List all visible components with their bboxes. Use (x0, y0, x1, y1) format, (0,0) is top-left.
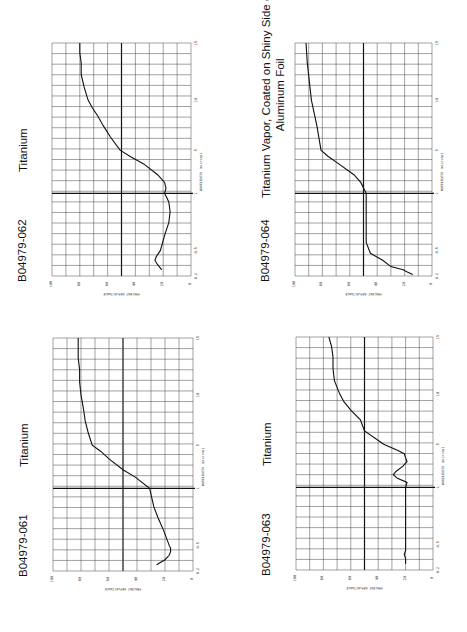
wavelength-tick-label: 15 (436, 335, 440, 339)
reflectance-tick-label: 20 (403, 576, 407, 580)
wavelength-tick-label: 10 (436, 392, 440, 396)
reflectance-chart: 0.20.5151015WAVELENGTH (microns)10080604… (0, 0, 467, 632)
reflectance-tick-label: 40 (375, 576, 379, 580)
reflectance-tick-label: 100 (293, 575, 297, 582)
wavelength-tick-label: 0.5 (436, 541, 440, 548)
sample-id: B04979-063 (260, 513, 272, 576)
wavelength-tick-label: 1 (436, 486, 440, 488)
reflectance-tick-label: 60 (348, 576, 352, 580)
wavelength-tick-label: 5 (436, 443, 440, 445)
sample-name: Titanium (260, 422, 274, 466)
reflectance-tick-label: 80 (320, 576, 324, 580)
wavelength-axis-label: WAVELENGTH (microns) (441, 446, 445, 484)
wavelength-tick-label: 0.2 (436, 567, 440, 574)
reflectance-tick-label: 0 (430, 577, 434, 579)
reflectance-curve (329, 337, 407, 564)
reflectance-axis-label: PERCENT REFLECTANCE (346, 586, 383, 590)
